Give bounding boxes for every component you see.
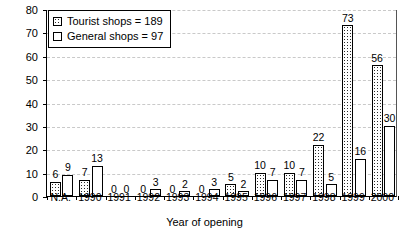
y-axis-tick bbox=[43, 150, 47, 151]
bar-value-label: 16 bbox=[352, 146, 369, 157]
x-axis-category-label: 1991 bbox=[105, 191, 134, 203]
x-axis-category-label: 1999 bbox=[339, 191, 368, 203]
chart-legend: Tourist shops = 189 General shops = 97 bbox=[48, 10, 171, 48]
x-axis-category-label: 2000 bbox=[368, 191, 397, 203]
y-axis-tick-label: 0 bbox=[0, 192, 38, 203]
y-axis-tick bbox=[43, 80, 47, 81]
y-axis-tick-label: 40 bbox=[0, 99, 38, 110]
bar-tourist bbox=[372, 65, 383, 196]
x-axis-category-label: 1996 bbox=[251, 191, 280, 203]
bar-value-label: 7 bbox=[264, 167, 281, 178]
x-axis-category-label: 1994 bbox=[192, 191, 221, 203]
bar-value-label: 30 bbox=[381, 113, 398, 124]
y-axis-tick-label: 80 bbox=[0, 5, 38, 16]
y-axis-tick-label: 30 bbox=[0, 122, 38, 133]
legend-item-general: General shops = 97 bbox=[53, 29, 163, 44]
bar-value-label: 22 bbox=[310, 132, 327, 143]
x-axis-category-label: 1995 bbox=[222, 191, 251, 203]
legend-swatch-general-icon bbox=[53, 32, 62, 41]
bar-value-label: 9 bbox=[59, 162, 76, 173]
x-axis-category-label: 1992 bbox=[134, 191, 163, 203]
y-axis-tick-label: 50 bbox=[0, 75, 38, 86]
legend-item-tourist: Tourist shops = 189 bbox=[53, 14, 163, 29]
bar-value-label: 3 bbox=[206, 177, 223, 188]
x-axis-category-label: 1993 bbox=[163, 191, 192, 203]
legend-swatch-tourist-icon bbox=[53, 17, 62, 26]
y-axis-tick-label: 10 bbox=[0, 169, 38, 180]
bar-general bbox=[384, 126, 395, 196]
bar-value-label: 5 bbox=[323, 172, 340, 183]
y-axis-tick-label: 20 bbox=[0, 145, 38, 156]
x-axis-category-label: 1990 bbox=[75, 191, 104, 203]
x-axis-tick bbox=[398, 196, 399, 200]
bar-tourist bbox=[342, 25, 353, 196]
y-axis-tick bbox=[43, 104, 47, 105]
bar-value-label: 13 bbox=[89, 153, 106, 164]
legend-label-general: General shops = 97 bbox=[67, 31, 163, 42]
bar-value-label: 73 bbox=[339, 13, 356, 24]
x-axis-title: Year of opening bbox=[0, 216, 409, 228]
bar-value-label: 7 bbox=[76, 167, 93, 178]
y-axis-tick-label: 70 bbox=[0, 28, 38, 39]
legend-label-tourist: Tourist shops = 189 bbox=[67, 16, 163, 27]
bar-value-label: 2 bbox=[176, 179, 193, 190]
bar-tourist bbox=[313, 145, 324, 196]
y-axis-tick bbox=[43, 33, 47, 34]
bar-value-label: 2 bbox=[235, 179, 252, 190]
x-axis-category-label: 1997 bbox=[280, 191, 309, 203]
x-axis-category-label: N.A. bbox=[46, 191, 75, 203]
bar-value-label: 56 bbox=[369, 53, 386, 64]
y-axis-tick-label: 60 bbox=[0, 52, 38, 63]
bar-value-label: 7 bbox=[293, 167, 310, 178]
y-axis-tick bbox=[43, 57, 47, 58]
x-axis-category-label: 1998 bbox=[309, 191, 338, 203]
y-axis-tick bbox=[43, 127, 47, 128]
bar-value-label: 3 bbox=[147, 177, 164, 188]
bar-chart: Number of shops 697130003020352107107225… bbox=[0, 0, 409, 240]
y-axis-tick bbox=[43, 10, 47, 11]
